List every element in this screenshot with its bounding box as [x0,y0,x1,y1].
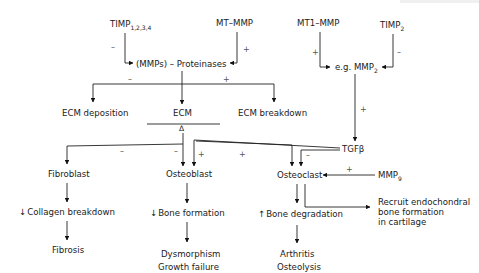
node-timp1234: TIMP1,2,3,4 [109,19,152,31]
up-arrow-icon: ↑ [258,209,265,219]
sign-ecm-fibroblast: – [120,147,124,156]
sign-tgfb-osteoblast: + [198,150,205,159]
node-recruit-line3: in cartilage [378,217,426,227]
node-dysmorphism: Dysmorphism [161,249,220,259]
node-ecm: ECM [173,108,192,118]
down-arrow-icon: ↓ [150,208,157,218]
mmp-pathway-diagram: TIMP1,2,3,4 MT–MMP MT1–MMP TIMP2 – + (MM… [0,0,479,273]
sign-timp2-mmp2: – [397,48,401,57]
sign-timp-mmps: – [111,43,115,52]
edge-mtmmp-to-mmps [230,32,237,63]
sign-tgfb-osteoclast-minus: – [306,151,310,160]
node-osteolysis: Osteolysis [277,262,321,272]
sign-mmps-breakdown: + [223,75,230,84]
sign-mtmmp-mmps: + [243,45,250,54]
sign-mt1mmp-mmp2: + [312,48,319,57]
down-arrow-icon: ↓ [19,207,26,217]
node-bone-degradation: ↑Bone degradation [258,209,343,219]
node-mt-mmp: MT–MMP [216,18,253,28]
sign-mmps-deposition: – [128,75,132,84]
edge-osteoclast-to-recruit [305,184,370,207]
edge-timp-to-mmps [125,33,133,63]
node-recruit-line2: bone formation [378,207,444,217]
sign-mmp9-osteoclast: + [346,165,353,174]
node-tgfb: TGFβ [341,144,364,154]
sign-ecm-osteoblast: – [174,147,178,156]
node-fibrosis: Fibrosis [52,245,85,255]
ecm-delta-symbol: Δ [179,124,185,133]
node-recruit-line1: Recruit endochondral [378,197,470,207]
node-fibroblast: Fibroblast [48,169,90,179]
edge-ecm-branch-left [67,144,183,146]
node-ecm-deposition: ECM deposition [62,108,128,118]
node-mt1-mmp: MT1–MMP [297,18,339,28]
node-arthritis: Arthritis [280,249,315,259]
sign-tgfb-osteoclast-plus: + [239,150,246,159]
node-osteoclast: Osteoclast [277,170,323,180]
node-bone-formation: ↓Bone formation [150,208,225,218]
node-ecm-breakdown: ECM breakdown [238,108,307,118]
node-mmp2: e.g. MMP2 [335,62,378,74]
node-mmp9: MMP9 [378,170,402,182]
edge-mt1mmp-to-mmp2 [320,32,330,67]
node-growth-failure: Growth failure [158,262,219,272]
node-timp2: TIMP2 [379,20,404,32]
sign-mmp2-tgfb: + [360,105,367,114]
edge-timp2-to-mmp2 [382,34,393,67]
node-mmps-proteinases: (MMPs) – Proteinases [136,59,227,69]
node-collagen-breakdown: ↓Collagen breakdown [19,207,115,217]
node-osteoblast: Osteoblast [166,169,213,179]
